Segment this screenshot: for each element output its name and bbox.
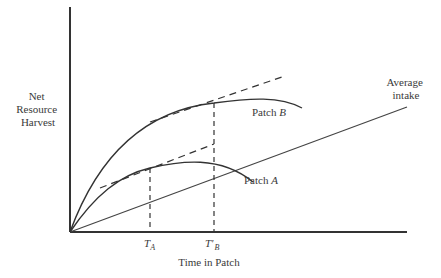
patch-a-label: Patch A — [244, 174, 278, 186]
x-axis-label: Time in Patch — [178, 256, 240, 268]
average-intake-line — [70, 107, 407, 232]
y-axis-label: Net Resource Harvest — [16, 90, 60, 128]
marginal-value-diagram: Net Resource Harvest Average intake Patc… — [0, 0, 441, 278]
patch-b-curve — [70, 99, 302, 232]
t-a-tick-label: TA — [144, 237, 155, 252]
patch-b-label: Patch B — [252, 106, 286, 118]
t-b-tick-label: T'B — [205, 237, 219, 252]
average-intake-label: Average intake — [386, 76, 425, 101]
